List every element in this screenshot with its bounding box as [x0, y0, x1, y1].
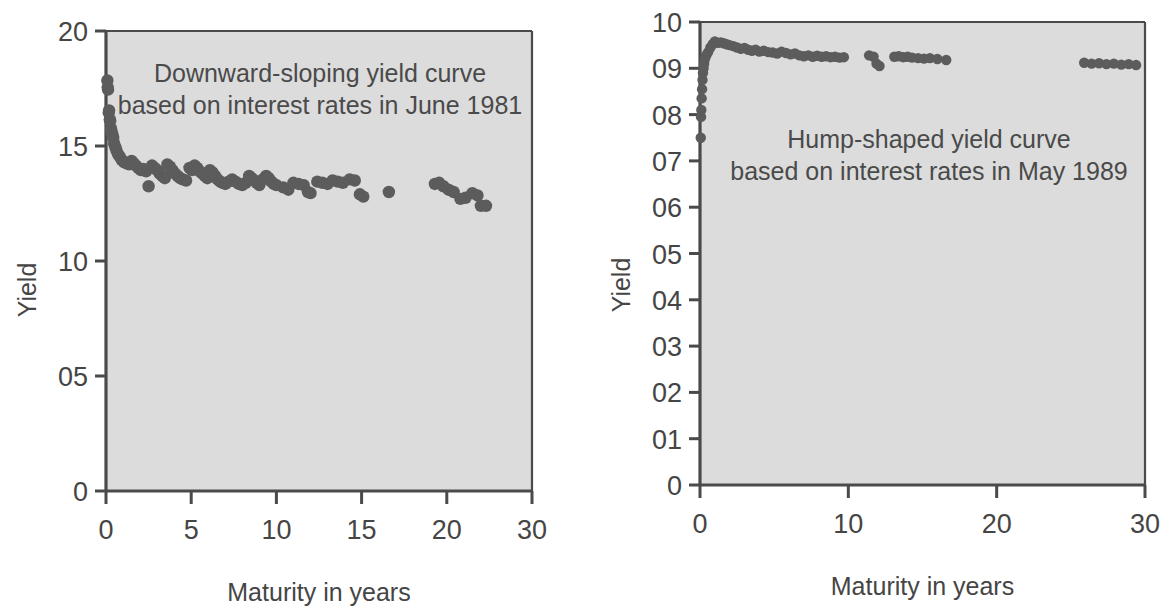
x-tick-label: 20: [982, 509, 1012, 539]
data-point: [839, 52, 849, 62]
x-tick-label: 20: [432, 515, 462, 545]
y-tick-label: 10: [652, 8, 682, 38]
data-point: [180, 174, 192, 186]
data-point: [142, 180, 154, 192]
y-tick-label: 02: [652, 378, 682, 408]
y-tick-label: 05: [652, 240, 682, 270]
y-tick-label: 0: [667, 471, 682, 501]
x-tick-label: 30: [517, 515, 547, 545]
data-point: [102, 83, 114, 95]
plot-area-background: [700, 22, 1145, 485]
y-tick-label: 01: [652, 425, 682, 455]
y-tick-label: 07: [652, 147, 682, 177]
y-tick-label: 20: [58, 17, 88, 47]
data-point: [696, 133, 706, 143]
scatter-plot-left: 0051015200510152030 Downward-sloping yie…: [0, 0, 584, 609]
y-axis-title: Yield: [13, 263, 41, 318]
y-tick-label: 15: [58, 132, 88, 162]
y-tick-label: 0: [73, 477, 88, 507]
chart-panel-right: 0010203040506070809100102030 Hump-shaped…: [584, 0, 1167, 609]
x-tick-label: 10: [261, 515, 291, 545]
x-tick-label: 0: [98, 515, 113, 545]
y-tick-label: 03: [652, 332, 682, 362]
y-tick-label: 06: [652, 193, 682, 223]
chart-annotation-line-1: Hump-shaped yield curve: [787, 125, 1070, 153]
chart-panel-left: 0051015200510152030 Downward-sloping yie…: [0, 0, 584, 609]
data-point: [874, 61, 884, 71]
data-point: [697, 84, 707, 94]
y-axis-title: Yield: [607, 258, 635, 313]
x-tick-label: 10: [833, 509, 863, 539]
x-axis-title: Maturity in years: [831, 572, 1014, 600]
x-tick-label: 0: [692, 509, 707, 539]
x-tick-label: 15: [347, 515, 377, 545]
data-point: [932, 54, 942, 64]
y-tick-label: 04: [652, 286, 682, 316]
data-point: [696, 105, 706, 115]
data-point: [349, 174, 361, 186]
x-axis-title: Maturity in years: [227, 578, 410, 606]
yield-curve-figure: 0051015200510152030 Downward-sloping yie…: [0, 0, 1167, 609]
data-point: [941, 55, 951, 65]
chart-annotation-line-2: based on interest rates in May 1989: [730, 157, 1127, 185]
y-tick-label: 08: [652, 101, 682, 131]
scatter-plot-right: 0010203040506070809100102030 Hump-shaped…: [584, 0, 1167, 609]
data-point: [357, 190, 369, 202]
x-tick-label: 5: [184, 515, 199, 545]
data-point: [1131, 60, 1141, 70]
y-tick-label: 05: [58, 362, 88, 392]
data-point: [480, 200, 492, 212]
chart-annotation-line-1: Downward-sloping yield curve: [154, 59, 486, 87]
data-point: [383, 186, 395, 198]
chart-annotation-line-2: based on interest rates in June 1981: [118, 91, 522, 119]
data-point: [304, 187, 316, 199]
data-point: [696, 93, 706, 103]
y-tick-label: 09: [652, 54, 682, 84]
x-tick-label: 30: [1130, 509, 1160, 539]
y-tick-label: 10: [58, 247, 88, 277]
